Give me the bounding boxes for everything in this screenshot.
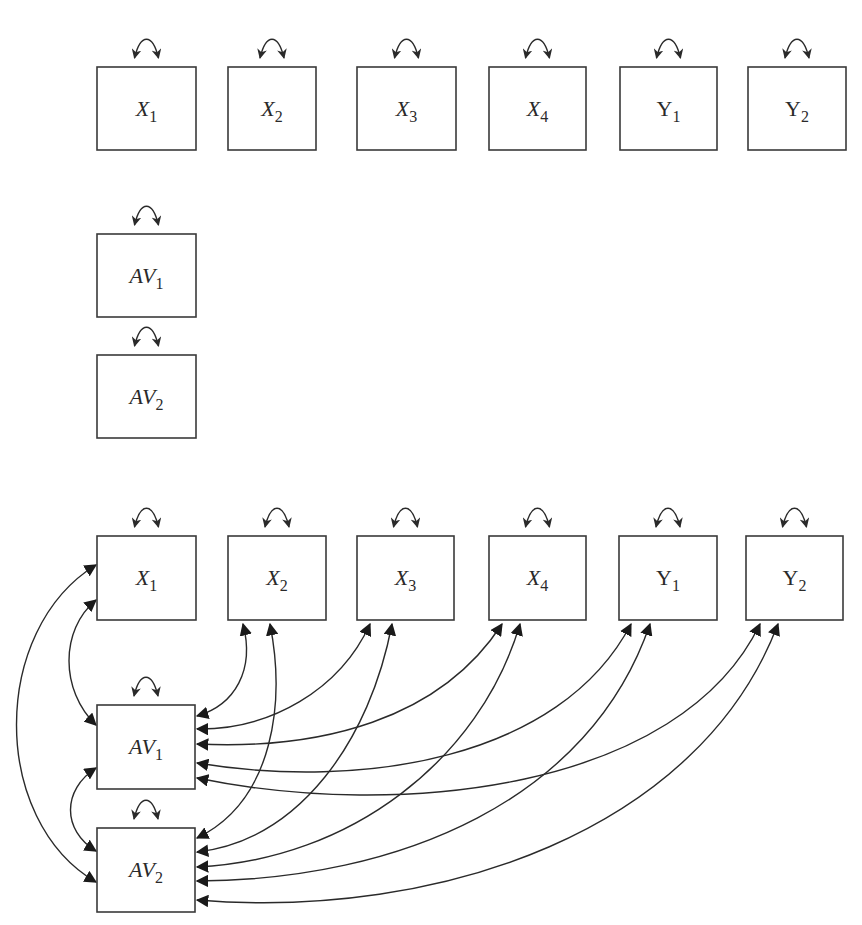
variance-arrow-icon	[394, 508, 418, 527]
variance-arrow-icon	[135, 39, 159, 58]
node-Y1: Y1	[619, 508, 717, 620]
variance-arrow-icon	[526, 39, 550, 58]
node-AV2: AV2	[97, 327, 196, 438]
variance-arrow-icon	[134, 800, 158, 819]
node-AV2: AV2	[97, 800, 195, 912]
variance-arrow-icon	[395, 39, 419, 58]
covariance-Y1-AV1	[197, 624, 631, 772]
variance-arrow-icon	[260, 39, 284, 58]
variance-arrow-icon	[785, 39, 809, 58]
node-X4: X4	[489, 39, 586, 150]
variance-arrow-icon	[134, 677, 158, 696]
node-AV1: AV1	[97, 206, 196, 317]
variance-arrow-icon	[135, 508, 159, 527]
node-Y2: Y2	[746, 508, 843, 620]
covariance-X3-AV1	[197, 624, 370, 729]
auxiliary-variable-model-panel: X1X2X3X4Y1Y2AV1AV2	[17, 508, 844, 912]
variance-arrow-icon	[657, 39, 681, 58]
covariance-X2-AV2	[197, 624, 276, 838]
variance-arrow-icon	[656, 508, 680, 527]
covariance-X2-AV1	[197, 624, 246, 716]
variance-arrow-icon	[265, 508, 289, 527]
node-X2: X2	[228, 508, 326, 620]
node-X2: X2	[228, 39, 316, 150]
node-X1: X1	[97, 39, 196, 150]
covariance-AV1-AV2	[71, 768, 97, 851]
covariance-X4-AV1	[197, 624, 502, 745]
unconnected-model-panel: X1X2X3X4Y1Y2AV1AV2	[97, 39, 846, 438]
node-Y1: Y1	[620, 39, 717, 150]
variance-arrow-icon	[783, 508, 807, 527]
covariance-Y2-AV2	[197, 624, 778, 903]
covariance-Y1-AV2	[197, 624, 650, 881]
variance-arrow-icon	[526, 508, 550, 527]
node-Y2: Y2	[748, 39, 846, 150]
path-diagram: X1X2X3X4Y1Y2AV1AV2	[0, 0, 862, 925]
covariance-X1-AV1	[69, 600, 96, 725]
node-AV1: AV1	[97, 677, 195, 789]
node-X3: X3	[357, 508, 454, 620]
variance-arrow-icon	[135, 206, 159, 225]
node-X3: X3	[357, 39, 456, 150]
variance-arrow-icon	[135, 327, 159, 346]
node-X1: X1	[97, 508, 196, 620]
node-X4: X4	[489, 508, 586, 620]
